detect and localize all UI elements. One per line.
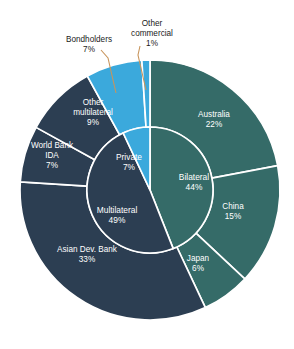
- sunburst-chart-svg: Bilateral44%Multilateral49%Private7%Aust…: [0, 0, 294, 349]
- slice-label-china: China15%: [222, 202, 244, 221]
- callout-label-other: Othercommercial1%: [131, 19, 173, 48]
- pie-chart-figure: Bilateral44%Multilateral49%Private7%Aust…: [0, 0, 294, 349]
- cropped-header-text: [6, 0, 286, 6]
- callout-label-bondholders: Bondholders7%: [66, 35, 112, 54]
